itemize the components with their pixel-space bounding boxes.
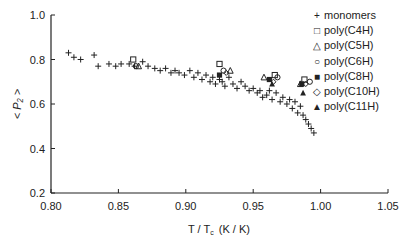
x-tick-label: 0.80	[40, 200, 61, 212]
legend-label: poly(C4H)	[324, 23, 374, 38]
y-tick-label: 0.6	[30, 98, 45, 110]
legend-marker-icon: □	[312, 23, 322, 38]
x-tick-label: 1.05	[377, 200, 398, 212]
legend-item: ■poly(C8H)	[312, 69, 380, 84]
x-tick-label: 1.00	[310, 200, 331, 212]
y-tick-label: 0.2	[30, 187, 45, 199]
legend-marker-icon: ▲	[312, 99, 322, 114]
y-tick-label: 0.4	[30, 143, 45, 155]
legend-label: poly(C10H)	[324, 84, 380, 99]
legend-item: ▲poly(C11H)	[312, 99, 380, 114]
legend-label: poly(C6H)	[324, 54, 374, 69]
legend-marker-icon: ◇	[312, 84, 322, 99]
x-tick-label: 0.90	[175, 200, 196, 212]
legend-item: ◇poly(C10H)	[312, 84, 380, 99]
y-tick-label: 0.8	[30, 54, 45, 66]
legend-marker-icon: △	[312, 38, 322, 53]
legend-marker-icon: ○	[312, 54, 322, 69]
legend-label: poly(C8H)	[324, 69, 374, 84]
y-tick-label: 1.0	[30, 9, 45, 21]
x-tick-label: 0.85	[108, 200, 129, 212]
x-axis-label: T / Tc(K / K)	[188, 223, 250, 236]
legend-marker-icon: +	[312, 8, 322, 23]
legend-marker-icon: ■	[312, 69, 322, 84]
legend-item: □poly(C4H)	[312, 23, 380, 38]
legend-item: △poly(C5H)	[312, 38, 380, 53]
legend-item: ○poly(C6H)	[312, 54, 380, 69]
legend-label: poly(C11H)	[324, 99, 379, 114]
legend: +monomers□poly(C4H)△poly(C5H)○poly(C6H)■…	[312, 8, 380, 114]
legend-item: +monomers	[312, 8, 380, 23]
x-tick-label: 0.95	[242, 200, 263, 212]
legend-label: monomers	[324, 8, 376, 23]
data-points	[66, 50, 317, 136]
y-axis-label: < P₂ >	[11, 88, 23, 119]
legend-label: poly(C5H)	[324, 38, 374, 53]
